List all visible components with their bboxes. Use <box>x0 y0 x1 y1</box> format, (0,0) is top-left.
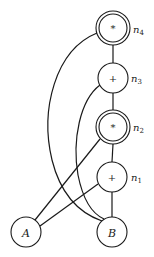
node-n1: + n1 <box>97 162 142 192</box>
edge-n2-n1 <box>112 144 113 162</box>
node-n1-op: + <box>108 172 116 183</box>
node-n1-label: n1 <box>131 172 142 185</box>
node-n2-label: n2 <box>133 122 144 135</box>
dag-diagram: * n4 + n3 * n2 + n1 A B <box>0 0 154 257</box>
node-n3: + n3 <box>98 63 142 93</box>
node-n4-op: * <box>111 23 116 34</box>
node-A-label: A <box>21 227 30 240</box>
node-B-label: B <box>107 227 116 240</box>
node-n4: * n4 <box>96 11 144 45</box>
node-n2: * n2 <box>96 110 144 144</box>
node-n4-label: n4 <box>133 24 144 37</box>
node-n3-op: + <box>109 73 117 84</box>
node-A: A <box>11 217 41 247</box>
node-B: B <box>97 217 127 247</box>
node-n2-op: * <box>111 122 116 133</box>
node-n3-label: n3 <box>131 73 142 86</box>
